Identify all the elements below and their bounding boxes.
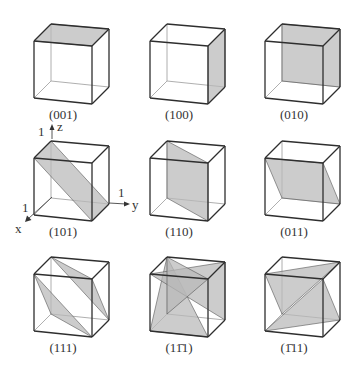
cube-edge	[265, 331, 323, 337]
cube-edge	[265, 98, 323, 104]
cube-edge	[167, 24, 225, 29]
crystal-plane	[34, 141, 109, 221]
cube-9: (1̄11)	[265, 257, 340, 355]
cube-4: (101)	[34, 141, 109, 239]
z-arrowhead-icon	[50, 124, 55, 130]
crystal-plane	[167, 141, 208, 221]
cube-3: (010)	[265, 24, 340, 122]
cube-edge	[150, 141, 167, 158]
cube-edge	[92, 87, 109, 104]
cube-edge	[265, 24, 282, 41]
cube-5: (110)	[150, 141, 225, 239]
cube-edge	[208, 320, 225, 337]
plane-label: (111)	[49, 340, 76, 355]
cube-edge	[323, 146, 340, 163]
plane-label: (010)	[280, 107, 308, 122]
y-arrowhead-icon	[124, 202, 130, 207]
cube-8: (11̄1)	[150, 257, 225, 355]
cube-6: (011)	[265, 141, 340, 239]
cube-edge	[167, 141, 225, 146]
cube-edge	[92, 146, 109, 163]
plane-label: (1̄11)	[280, 340, 307, 355]
y-axis-arrow	[109, 203, 126, 204]
cube-edge	[51, 141, 109, 146]
hidden-edge	[265, 81, 282, 98]
cube-edge	[208, 146, 225, 163]
cube-edge	[323, 320, 340, 337]
cube-edge	[167, 257, 225, 262]
cube-edge	[92, 262, 109, 279]
hidden-edge	[265, 198, 282, 215]
plane-label: (001)	[49, 107, 77, 122]
x-axis-tick: 1	[22, 200, 29, 215]
cube-2: (100)	[150, 24, 225, 122]
cube-edge	[34, 215, 92, 221]
y-axis-label: y	[132, 197, 139, 212]
x-axis-label: x	[15, 221, 22, 236]
cube-edge	[150, 98, 208, 104]
cube-edge	[208, 204, 225, 221]
hidden-edge	[34, 314, 51, 331]
y-axis-tick: 1	[118, 185, 125, 200]
crystal-plane	[282, 24, 340, 87]
hidden-edge	[51, 81, 109, 87]
plane-label: (011)	[280, 224, 308, 239]
cube-edge	[92, 320, 109, 337]
cube-edge	[150, 41, 208, 46]
cube-edge	[34, 257, 51, 274]
crystal-plane	[208, 29, 225, 104]
plane-label: (100)	[165, 107, 193, 122]
cube-edge	[34, 98, 92, 104]
hidden-edge	[34, 81, 51, 98]
plane-label: (110)	[165, 224, 193, 239]
cube-edge	[323, 204, 340, 221]
crystal-plane	[265, 158, 340, 204]
z-axis-label: z	[57, 119, 63, 134]
z-axis-tick: 1	[38, 124, 45, 139]
plane-label: (101)	[49, 224, 77, 239]
cube-edge	[150, 24, 167, 41]
miller-indices-diagram: (001)(100)(010)(101)(110)(011)(111)(11̄1…	[0, 0, 360, 373]
hidden-edge	[150, 198, 167, 215]
cube-7: (111)	[34, 257, 109, 355]
cube-edge	[282, 141, 340, 146]
cube-edge	[51, 257, 109, 262]
cube-edge	[323, 87, 340, 104]
cube-1: (001)	[34, 24, 109, 122]
plane-label: (11̄1)	[165, 340, 192, 355]
cube-edge	[282, 257, 340, 262]
cubes-layer: (001)(100)(010)(101)(110)(011)(111)(11̄1…	[34, 24, 340, 355]
crystal-plane	[34, 24, 109, 46]
cube-edge	[265, 215, 323, 221]
hidden-edge	[150, 81, 167, 98]
cube-edge	[265, 141, 282, 158]
